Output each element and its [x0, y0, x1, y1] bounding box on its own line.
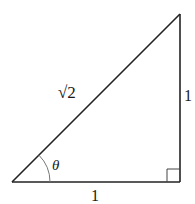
hypotenuse: [12, 14, 180, 182]
triangle-figure: [0, 0, 195, 204]
right-angle-marker: [167, 169, 180, 182]
vertical-side-label: 1: [184, 88, 192, 104]
angle-label: θ: [52, 158, 59, 173]
base-side-label: 1: [91, 188, 99, 204]
angle-arc: [39, 155, 50, 182]
hypotenuse-label: √2: [58, 84, 76, 101]
